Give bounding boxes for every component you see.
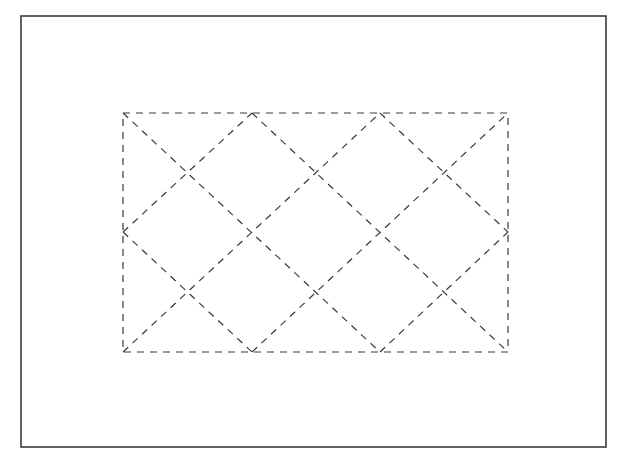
- diamond-lattice: [123, 113, 508, 352]
- outer-frame: [21, 16, 606, 447]
- diagram-canvas: [0, 0, 620, 465]
- dashed-rectangle: [123, 113, 508, 352]
